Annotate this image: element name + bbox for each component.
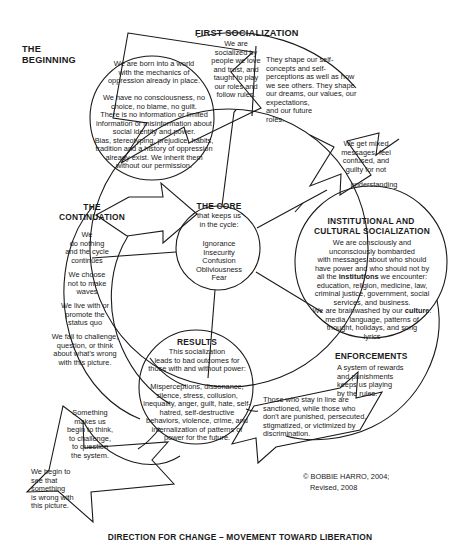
continuation-heading: THE CONTINUATION [37, 203, 147, 222]
enforcements-heading: ENFORCEMENTS [335, 352, 455, 362]
results-body-bottom: Misperceptions, dissonance, silence, str… [122, 383, 272, 443]
institutional-heading-line2: CULTURAL SOCIALIZATION [296, 227, 448, 237]
institutional-body: We are consciously and unconsciously bom… [296, 239, 448, 341]
copyright-line-2: Revised, 2008 [310, 484, 450, 493]
mixed-messages-text: We get mixed messages, feel confused, an… [330, 140, 402, 174]
core-body: Ignorance Insecurity Confusion Oblivious… [174, 240, 264, 283]
enforcements-body: A system of rewards and punishments keep… [337, 364, 445, 398]
first-socialization-body-left: We are socialized by people we love and … [211, 40, 261, 100]
core-subheading: that keeps us in the cycle: [178, 212, 260, 229]
first-socialization-divider [234, 110, 236, 112]
change-body-2: We begin to see that something is wrong … [31, 468, 103, 511]
continuation-body-3: We live with or promote the status quo [38, 302, 132, 328]
first-socialization-body-right: They shape our self- concepts and self- … [266, 56, 388, 124]
continuation-body-1: We do nothing and the cycle continues [42, 231, 132, 265]
first-socialization-heading: FIRST SOCIALIZATION [195, 28, 335, 39]
connector-institutional [295, 203, 303, 212]
copyright-line-1: © BOBBIE HARRO, 2004; [303, 473, 443, 482]
continuation-body-2: We choose not to make waves [42, 271, 132, 297]
beginning-body: We are born into a world with the mechan… [83, 60, 225, 171]
change-body-1: Something makes us begin to think, to ch… [52, 409, 128, 460]
enforcements-outer-body: Those who stay in line are sanctioned, w… [263, 396, 415, 439]
results-body-top: This socialization leads to bad outcomes… [136, 348, 258, 374]
continuation-body-4: We fail to challenge, question, or think… [29, 333, 141, 367]
direction-for-change-caption: DIRECTION FOR CHANGE – MOVEMENT TOWARD L… [60, 533, 420, 543]
mixed-messages-text-2: understanding [334, 181, 414, 190]
